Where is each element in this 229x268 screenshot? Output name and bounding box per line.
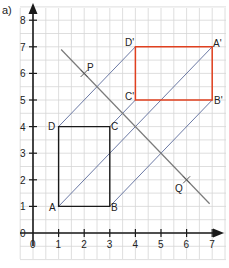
- part-label: a): [2, 4, 12, 16]
- label-a: A: [49, 202, 56, 213]
- label-c-prime: C': [125, 91, 134, 102]
- y-tick-label: 6: [20, 68, 26, 79]
- x-tick-label: 5: [158, 239, 164, 250]
- y-tick-label: 7: [20, 42, 26, 53]
- label-d-prime: D': [125, 37, 134, 48]
- x-tick-label: 3: [107, 239, 113, 250]
- y-tick-label: 4: [20, 122, 26, 133]
- x-tick-label: 2: [81, 239, 87, 250]
- y-tick-label: 2: [20, 175, 26, 186]
- x-tick-label: 4: [132, 239, 138, 250]
- y-tick-label: 3: [20, 148, 26, 159]
- y-tick-label: 5: [20, 95, 26, 106]
- label-q: Q: [175, 183, 183, 194]
- label-b-prime: B': [214, 95, 223, 106]
- y-axis-ticks: 012345678: [20, 15, 37, 239]
- label-p: P: [87, 62, 94, 73]
- y-axis: [29, 3, 38, 246]
- x-tick-label: 7: [209, 239, 215, 250]
- x-tick-label: 1: [56, 239, 62, 250]
- x-tick-label: 6: [184, 239, 190, 250]
- y-tick-label: 8: [20, 15, 26, 26]
- label-b: B: [111, 202, 118, 213]
- y-tick-label: 0: [20, 228, 26, 239]
- grid: [20, 7, 226, 260]
- label-a-prime: A': [213, 38, 222, 49]
- coordinate-diagram: 01234567 012345678 a) A B C D A' B' C' D…: [0, 0, 229, 268]
- x-axis-arrow-icon: [213, 229, 224, 238]
- y-axis-arrow-icon: [29, 3, 38, 14]
- y-tick-label: 1: [20, 201, 26, 212]
- label-d: D: [48, 121, 55, 132]
- x-axis: [20, 229, 224, 238]
- label-c: C: [111, 121, 118, 132]
- x-tick-label: 0: [30, 239, 36, 250]
